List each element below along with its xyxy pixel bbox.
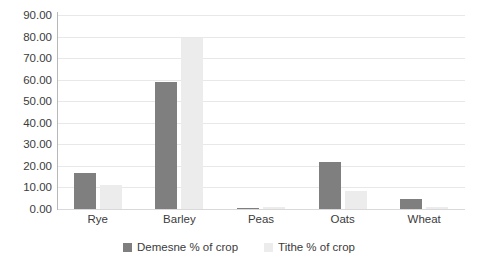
- y-tick-label: 20.00: [0, 160, 52, 172]
- x-tick-label: Barley: [139, 212, 221, 226]
- x-axis: RyeBarleyPeasOatsWheat: [57, 212, 465, 232]
- bar[interactable]: [426, 207, 448, 209]
- y-tick-label: 40.00: [0, 117, 52, 129]
- bar[interactable]: [100, 185, 122, 209]
- y-tick-label: 70.00: [0, 52, 52, 64]
- y-tick-label: 0.00: [0, 203, 52, 215]
- chart-legend: Demesne % of cropTithe % of crop: [0, 238, 478, 256]
- y-tick-label: 80.00: [0, 31, 52, 43]
- y-tick-label: 30.00: [0, 138, 52, 150]
- legend-label: Tithe % of crop: [278, 241, 355, 254]
- x-tick-label: Oats: [302, 212, 384, 226]
- legend-swatch-icon: [264, 243, 273, 252]
- bar[interactable]: [155, 82, 177, 209]
- bar[interactable]: [400, 199, 422, 209]
- bar[interactable]: [237, 208, 259, 209]
- y-axis: 0.0010.0020.0030.0040.0050.0060.0070.008…: [0, 0, 52, 224]
- gridline: [57, 209, 465, 210]
- y-tick-label: 90.00: [0, 9, 52, 21]
- bar[interactable]: [263, 207, 285, 209]
- legend-item[interactable]: Demesne % of crop: [123, 241, 238, 254]
- y-tick-label: 50.00: [0, 95, 52, 107]
- bar-group: [302, 15, 384, 209]
- bar[interactable]: [319, 162, 341, 209]
- bar[interactable]: [74, 173, 96, 209]
- bars-layer: [57, 15, 465, 209]
- bar-chart: 0.0010.0020.0030.0040.0050.0060.0070.008…: [0, 0, 478, 264]
- bar-group: [220, 15, 302, 209]
- legend-item[interactable]: Tithe % of crop: [264, 241, 355, 254]
- bar-group: [57, 15, 139, 209]
- y-tick-label: 10.00: [0, 181, 52, 193]
- y-tick-label: 60.00: [0, 74, 52, 86]
- bar-group: [383, 15, 465, 209]
- bar[interactable]: [345, 191, 367, 209]
- legend-swatch-icon: [123, 243, 132, 252]
- x-tick-label: Rye: [57, 212, 139, 226]
- x-tick-label: Wheat: [383, 212, 465, 226]
- bar[interactable]: [181, 38, 203, 209]
- legend-label: Demesne % of crop: [137, 241, 238, 254]
- x-tick-label: Peas: [220, 212, 302, 226]
- bar-group: [139, 15, 221, 209]
